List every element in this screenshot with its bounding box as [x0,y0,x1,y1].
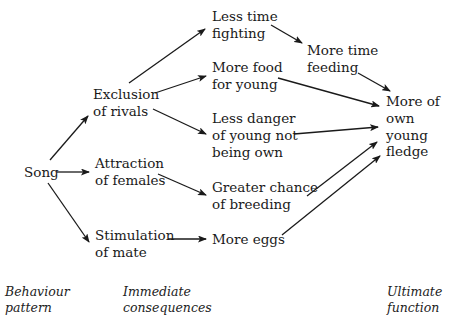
node-less-time-fighting: Less time fighting [212,8,278,42]
node-more-time-feeding: More time feeding [307,42,378,76]
node-line: More of [386,93,440,110]
column-label-immediate-consequences: Immediate consequences [123,284,212,316]
node-line: of rivals [93,103,159,120]
node-line: young [386,127,440,144]
node-line: fledge [386,143,440,160]
node-more-of-own-young-fledge: More of own young fledge [386,93,440,160]
arrow-danger-fledge [294,127,378,134]
node-less-danger: Less danger of young not being own [212,110,298,160]
node-line: Exclusion [93,86,159,103]
column-label-line: function [387,300,442,316]
node-line: own [386,110,440,127]
node-line: Less danger [212,110,298,127]
column-label-line: consequences [123,300,212,316]
arrow-food-fledge [278,78,379,106]
node-line: of females [95,172,166,189]
arrow-exclusion-danger [153,109,206,134]
node-line: of breeding [212,196,318,213]
node-line: being own [212,144,298,161]
arrow-feeding-fledge [358,73,390,91]
arrow-song-stimulation [48,183,89,242]
node-stimulation-of-mate: Stimulation of mate [95,227,174,261]
column-label-ultimate-function: Ultimate function [387,284,442,316]
column-label-behaviour-pattern: Behaviour pattern [5,284,70,316]
node-line: feeding [307,59,378,76]
node-line: of young not [212,127,298,144]
node-line: Stimulation [95,227,174,244]
arrow-exclusion-fighting [129,29,205,83]
node-line: Greater chance [212,179,318,196]
node-line: More time [307,42,378,59]
node-more-food-for-young: More food for young [212,59,283,93]
column-label-line: Ultimate [387,284,442,300]
node-more-eggs: More eggs [212,231,285,248]
column-label-line: Behaviour [5,284,70,300]
arrow-song-exclusion [50,116,88,160]
node-line: Attraction [95,155,166,172]
node-greater-chance-of-breeding: Greater chance of breeding [212,179,318,213]
column-label-line: pattern [5,300,70,316]
node-line: of mate [95,244,174,261]
node-line: More food [212,59,283,76]
node-exclusion-of-rivals: Exclusion of rivals [93,86,159,120]
node-attraction-of-females: Attraction of females [95,155,166,189]
node-line: fighting [212,25,278,42]
node-line: More eggs [212,231,285,248]
arrow-exclusion-food [155,76,206,93]
node-line: for young [212,76,283,93]
column-label-line: Immediate [123,284,212,300]
node-line: Less time [212,8,278,25]
node-song-line: Song [24,164,59,181]
node-song: Song [24,164,59,181]
